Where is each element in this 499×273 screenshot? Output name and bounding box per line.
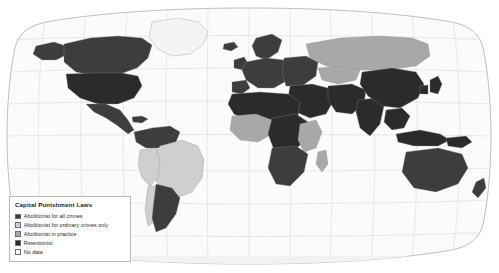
legend-swatch [15, 214, 21, 220]
map-legend: Capital Punishment Laws Abolitionist for… [9, 196, 131, 262]
legend-item-label: Abolitionist in practice [24, 230, 77, 238]
world-map-figure: Capital Punishment Laws Abolitionist for… [0, 0, 499, 273]
legend-item-no-data: No data [14, 248, 126, 257]
region-korea [420, 85, 428, 94]
legend-item-label: Retentionist [24, 239, 53, 247]
legend-item-retentionist: Retentionist [14, 239, 126, 248]
legend-swatch [15, 240, 21, 246]
legend-item-abolitionist-in-practice: Abolitionist in practice [14, 230, 126, 239]
legend-item-abolitionist-all-crimes: Abolitionist for all crimes [14, 212, 126, 221]
legend-title: Capital Punishment Laws [15, 201, 126, 209]
legend-item-label: Abolitionist for ordinary crimes only [24, 221, 108, 229]
region-russia [306, 36, 430, 70]
legend-item-label: Abolitionist for all crimes [24, 212, 83, 220]
legend-swatch [15, 222, 21, 228]
legend-swatch [15, 231, 21, 237]
legend-item-abolitionist-ordinary-crimes: Abolitionist for ordinary crimes only [14, 221, 126, 230]
legend-item-label: No data [24, 248, 43, 256]
legend-swatch [15, 249, 21, 255]
